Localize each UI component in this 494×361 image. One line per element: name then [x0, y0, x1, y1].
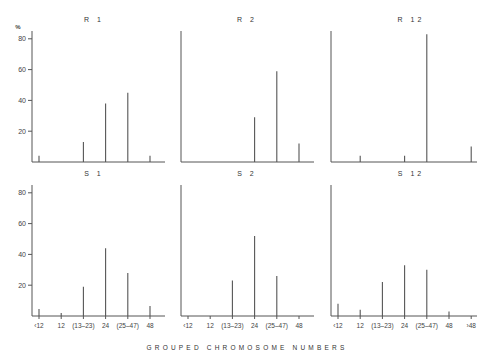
- panel-title: S 1: [84, 170, 104, 177]
- x-tick-label: ›48: [466, 322, 476, 329]
- x-tick-label: 24: [401, 322, 409, 329]
- y-tick-label: 20: [18, 282, 26, 289]
- x-tick-label: 12: [58, 322, 66, 329]
- x-tick-label: (25–47): [117, 322, 139, 330]
- x-tick-label: (13–23): [221, 322, 243, 330]
- panel-r1: R 120406080%: [15, 16, 165, 162]
- x-tick-label: 48: [295, 322, 303, 329]
- y-tick-label: 40: [18, 251, 26, 258]
- y-tick-label: 60: [18, 220, 26, 227]
- x-tick-label: 24: [102, 322, 110, 329]
- x-tick-label: (25–47): [416, 322, 438, 330]
- x-tick-label: 48: [445, 322, 453, 329]
- y-tick-label: 20: [18, 128, 26, 135]
- panel-r12: R 12: [331, 16, 477, 162]
- panel-title: R 1: [84, 16, 104, 23]
- panel-title: R 2: [237, 16, 257, 23]
- x-tick-label: ‹12: [34, 322, 44, 329]
- x-tick-label: ‹12: [183, 322, 193, 329]
- x-tick-label: (13–23): [72, 322, 94, 330]
- y-tick-label: 80: [18, 189, 26, 196]
- x-tick-label: (13–23): [371, 322, 393, 330]
- x-tick-label: 24: [251, 322, 259, 329]
- panel-title: S 2: [237, 170, 257, 177]
- x-tick-label: (25–47): [266, 322, 288, 330]
- x-tick-label: ‹12: [333, 322, 343, 329]
- y-axis-label: %: [15, 24, 21, 30]
- y-tick-label: 60: [18, 66, 26, 73]
- x-tick-label: 12: [357, 322, 365, 329]
- panel-title: R 12: [398, 16, 425, 23]
- panel-s2: S 2‹1212(13–23)24(25–47)48: [181, 170, 314, 330]
- panels-group: R 120406080%R 2R 12S 120406080‹1212(13–2…: [15, 16, 477, 330]
- panel-r2: R 2: [181, 16, 314, 162]
- x-axis-label: GROUPED CHROMOSOME NUMBERS: [147, 344, 348, 351]
- panel-s12: S 12‹1212(13–23)24(25–47)48›48: [331, 170, 477, 330]
- panel-title: S 12: [398, 170, 424, 177]
- y-tick-label: 40: [18, 97, 26, 104]
- chart-figure: R 120406080%R 2R 12S 120406080‹1212(13–2…: [0, 0, 494, 361]
- panel-s1: S 120406080‹1212(13–23)24(25–47)48: [18, 170, 165, 330]
- y-tick-label: 80: [18, 35, 26, 42]
- x-tick-label: 12: [207, 322, 215, 329]
- x-tick-label: 48: [146, 322, 154, 329]
